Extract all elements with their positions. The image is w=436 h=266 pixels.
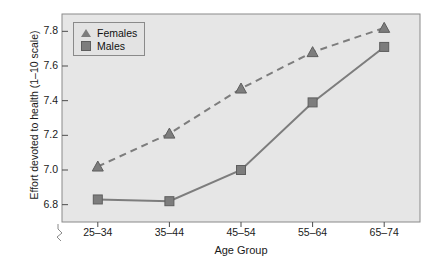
x-axis-tick-label: 25–34	[70, 226, 126, 238]
data-point-marker	[308, 98, 317, 107]
x-axis-title: Age Group	[62, 244, 420, 256]
x-axis-tick-label: 65–74	[356, 226, 412, 238]
legend-label-females: Females	[97, 27, 137, 39]
data-point-marker	[380, 42, 389, 51]
legend-label-males: Males	[97, 40, 125, 52]
legend-item-males: Males	[78, 39, 137, 52]
data-point-marker	[93, 195, 102, 204]
data-point-marker	[165, 197, 174, 206]
legend-item-females: Females	[78, 26, 137, 39]
chart-legend: Females Males	[73, 22, 145, 56]
data-point-marker	[237, 166, 246, 175]
triangle-marker-icon	[78, 29, 93, 37]
x-axis-tick-label: 35–44	[141, 226, 197, 238]
chart-figure: Effort devoted to health (1–10 scale) 7.…	[0, 0, 436, 266]
x-axis-tick-label: 45–54	[213, 226, 269, 238]
square-marker-icon	[78, 41, 93, 51]
axis-break-icon	[57, 224, 62, 241]
x-axis-tick-label: 55–64	[285, 226, 341, 238]
